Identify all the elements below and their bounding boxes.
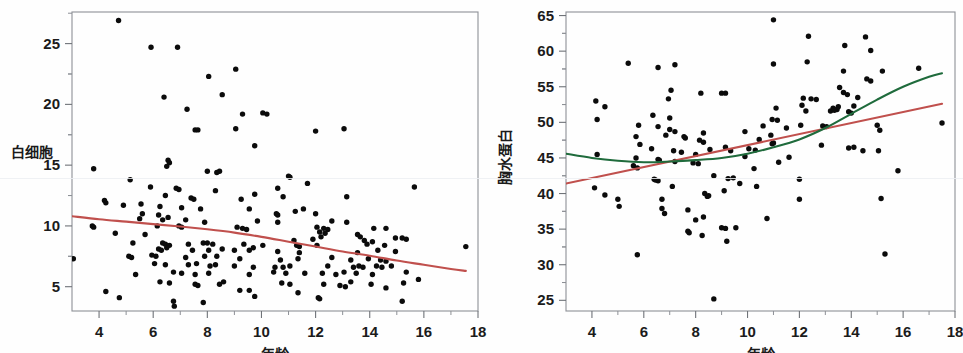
data-point [214,254,219,259]
data-point [637,142,642,147]
data-point [851,103,856,108]
data-point [370,272,375,277]
data-point [374,263,379,268]
data-point [666,96,671,101]
data-point [171,299,176,304]
data-point [133,272,138,277]
data-point [272,265,277,270]
data-point [776,160,781,165]
x-tick-label: 16 [895,323,912,340]
data-point [368,282,373,287]
data-point [733,225,738,230]
data-point [383,226,388,231]
x-axis-title: 年龄 [261,346,290,353]
data-point [707,147,712,152]
data-point [364,241,369,246]
data-point [161,94,166,99]
data-point [723,90,728,95]
data-point [832,108,837,113]
figure-container: 4681012141618510152025年龄白细胞 468101214161… [0,0,963,353]
data-point [275,249,280,254]
data-point [164,245,169,250]
data-point [247,272,252,277]
data-point [234,224,239,229]
data-point [176,187,181,192]
x-axis-title: 年龄 [747,346,776,353]
data-point [113,231,118,236]
data-point [655,65,660,70]
data-point [159,248,164,253]
data-layer [71,18,469,309]
data-point [875,122,880,127]
scatter-series [71,18,469,309]
data-point [593,98,598,103]
data-point [186,262,191,267]
data-point [706,193,711,198]
data-point [295,256,300,261]
data-point [192,272,197,277]
data-point [337,283,342,288]
data-point [313,128,318,133]
data-point [699,233,704,238]
data-point [322,231,327,236]
data-point [329,218,334,223]
data-point [317,229,322,234]
data-point [701,214,706,219]
x-tick-label: 6 [640,323,648,340]
data-point [667,127,672,132]
data-point [252,294,257,299]
data-point [333,272,338,277]
data-point [696,161,701,166]
data-point [693,217,698,222]
data-point [670,184,675,189]
data-point [416,277,421,282]
data-point [171,269,176,274]
x-tick-label: 18 [947,323,963,340]
y-tick-label: 40 [537,185,554,202]
data-point [771,140,776,145]
data-point [344,194,349,199]
data-point [916,66,921,71]
y-tick-label: 20 [43,95,60,112]
data-point [117,295,122,300]
data-point [138,201,143,206]
data-point [876,148,881,153]
data-point [860,148,865,153]
data-point [851,145,856,150]
data-point [210,241,215,246]
data-point [121,203,126,208]
data-point [731,175,736,180]
x-tick-label: 6 [149,323,157,340]
data-point [344,220,349,225]
data-point [206,248,211,253]
data-point [863,34,868,39]
data-point [683,135,688,140]
data-point [190,248,195,253]
data-point [798,122,803,127]
data-point [221,279,226,284]
y-tick-label: 60 [537,42,554,59]
data-point [880,68,885,73]
data-point [370,239,375,244]
data-point [175,45,180,50]
data-point [201,300,206,305]
data-point [237,256,242,261]
data-point [153,254,158,259]
data-point [247,288,252,293]
data-point [375,248,380,253]
data-point [379,265,384,270]
data-point [797,177,802,182]
data-point [260,243,265,248]
data-point [275,212,280,217]
data-point [711,296,716,301]
data-point [247,206,252,211]
data-point [195,283,200,288]
y-tick-label: 5 [52,278,60,295]
data-point [275,186,280,191]
data-point [771,61,776,66]
data-point [325,263,330,268]
data-point [358,234,363,239]
data-point [205,169,210,174]
data-point [184,107,189,112]
data-point [797,197,802,202]
